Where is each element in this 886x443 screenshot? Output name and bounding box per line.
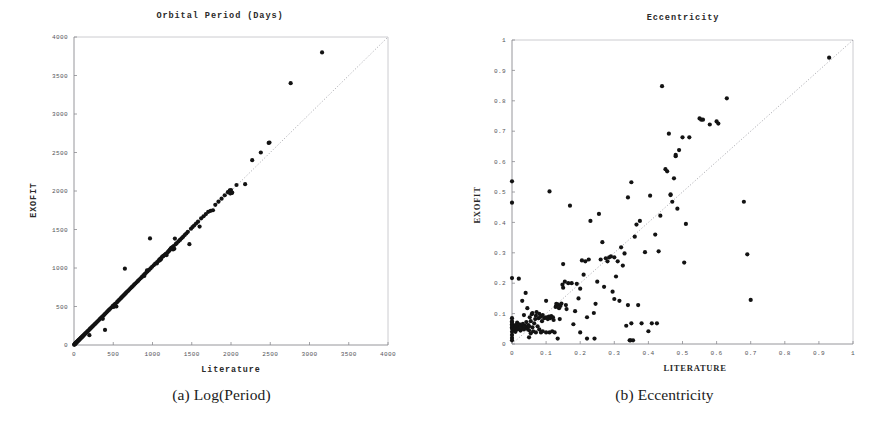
svg-text:0: 0 [510,350,514,357]
svg-text:0.5: 0.5 [676,350,688,357]
svg-text:0.2: 0.2 [494,280,506,287]
svg-text:0.3: 0.3 [494,250,506,257]
svg-text:Orbital Period (Days): Orbital Period (Days) [156,11,283,21]
svg-text:3500: 3500 [341,351,357,358]
svg-text:0.5: 0.5 [494,189,506,196]
svg-text:0.3: 0.3 [608,350,620,357]
svg-text:0.1: 0.1 [494,311,506,318]
svg-text:500: 500 [56,304,68,311]
svg-text:2500: 2500 [262,351,278,358]
svg-text:0.1: 0.1 [540,350,552,357]
svg-text:0.6: 0.6 [711,350,723,357]
svg-text:1: 1 [851,350,855,357]
svg-text:1500: 1500 [184,351,200,358]
svg-text:500: 500 [107,351,119,358]
scatter-plot-orbital-period: 0500100015002000250030003500400005001000… [0,0,443,390]
svg-text:1000: 1000 [52,265,68,272]
plot-a-content: 0500100015002000250030003500400005001000… [29,11,396,375]
svg-text:4000: 4000 [52,34,68,41]
svg-text:EXOFIT: EXOFIT [472,186,482,223]
svg-text:2000: 2000 [223,351,239,358]
svg-text:1000: 1000 [144,351,160,358]
svg-text:0.4: 0.4 [494,220,506,227]
svg-text:Literature: Literature [201,365,260,375]
svg-text:0.7: 0.7 [745,350,757,357]
svg-text:0: 0 [502,341,506,348]
figure-row: 0500100015002000250030003500400005001000… [0,0,886,443]
svg-text:0.9: 0.9 [494,68,506,75]
svg-text:0.8: 0.8 [779,350,791,357]
plot-b-content: 00.10.20.30.40.50.60.70.80.9100.10.20.30… [472,13,855,373]
svg-text:0: 0 [64,342,68,349]
svg-text:0: 0 [72,351,76,358]
svg-text:1500: 1500 [52,227,68,234]
svg-text:0.8: 0.8 [494,98,506,105]
svg-text:1: 1 [502,37,506,44]
caption-panel-a: (a) Log(Period) [0,386,443,404]
panel-eccentricity: 00.10.20.30.40.50.60.70.80.9100.10.20.30… [443,0,886,443]
svg-text:2500: 2500 [52,150,68,157]
svg-text:3500: 3500 [52,73,68,80]
svg-text:0.7: 0.7 [494,128,506,135]
svg-text:4000: 4000 [380,351,396,358]
svg-text:2000: 2000 [52,188,68,195]
svg-text:3000: 3000 [301,351,317,358]
svg-text:3000: 3000 [52,111,68,118]
svg-text:LITERATURE: LITERATURE [663,363,726,373]
svg-text:EXOFIT: EXOFIT [29,182,39,218]
svg-text:0.4: 0.4 [642,350,654,357]
svg-text:Eccentricity: Eccentricity [647,13,720,23]
svg-text:0.2: 0.2 [574,350,586,357]
svg-text:0.6: 0.6 [494,159,506,166]
svg-text:0.9: 0.9 [813,350,825,357]
scatter-plot-eccentricity: 00.10.20.30.40.50.60.70.80.9100.10.20.30… [443,0,886,390]
panel-log-period: 0500100015002000250030003500400005001000… [0,0,443,443]
caption-panel-b: (b) Eccentricity [443,386,886,404]
